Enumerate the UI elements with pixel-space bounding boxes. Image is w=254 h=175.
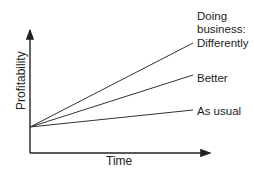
label-as-usual: As usual [197, 105, 241, 118]
legend-title-line2: business: [197, 23, 246, 36]
y-axis-label: Profitability [14, 51, 28, 110]
line-as-usual [30, 110, 193, 127]
label-better: Better [197, 72, 228, 85]
profitability-diagram: Doing business: Differently Better As us… [0, 0, 254, 175]
x-axis-label: Time [106, 155, 132, 168]
line-better [30, 75, 193, 127]
line-differently [30, 43, 193, 127]
legend-title-line1: Doing [197, 10, 227, 23]
label-differently: Differently [197, 37, 249, 50]
